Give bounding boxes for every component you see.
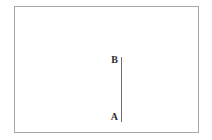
diagram-canvas: B A [15, 7, 200, 134]
figure-frame: B A [14, 6, 199, 133]
segment-ab-line [121, 57, 122, 122]
point-label-b: B [107, 55, 118, 65]
figure-root: B A [0, 0, 212, 140]
point-label-a: A [107, 112, 118, 122]
